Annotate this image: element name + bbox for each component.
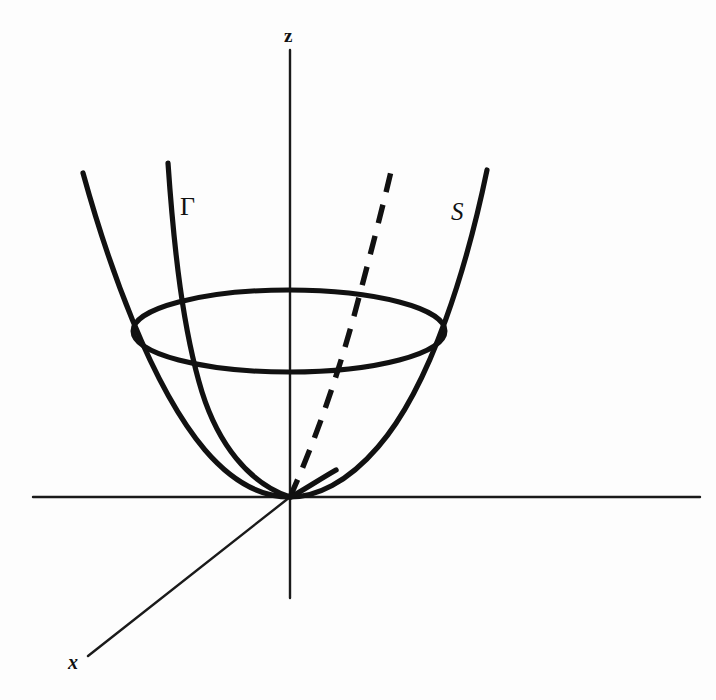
gamma-curve-label: Γ [180,194,195,220]
z-axis-label: z [284,26,292,45]
x-axis-label: x [68,652,78,672]
figure-canvas: z x Γ S [0,0,716,700]
x-axis-oblique-line [88,497,290,656]
paraboloid-silhouette-curve [83,170,487,497]
diagram-svg [0,0,716,700]
surface-label: S [451,199,464,224]
